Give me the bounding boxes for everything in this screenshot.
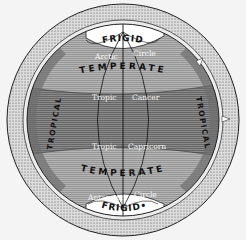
tropic-cancer-label-1: Tropic <box>92 93 117 102</box>
tropic-capricorn-label-2: Capricorn <box>128 142 166 151</box>
tropic-capricorn-label-1: Tropic <box>92 142 117 151</box>
globe-svg: FRIGID Arctic Circle TEMPERATE Tropic Ca… <box>0 0 246 240</box>
arctic-circle-label-1: Arctic <box>94 52 118 61</box>
antarctic-circle-label-2: Circle <box>134 190 157 199</box>
climate-zones-diagram: FRIGID Arctic Circle TEMPERATE Tropic Ca… <box>0 0 246 240</box>
tropic-cancer-label-2: Cancer <box>132 93 160 102</box>
arctic-circle-label-2: Circle <box>133 49 156 58</box>
